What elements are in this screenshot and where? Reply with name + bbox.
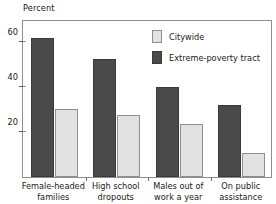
bar-chart-figure: Percent 204060 Female-headedfamiliesHigh… (0, 0, 275, 204)
y-axis-title: Percent (23, 3, 55, 13)
x-axis-category-label-line: Female-headed (18, 181, 89, 192)
legend-swatch-light-icon (152, 30, 162, 43)
x-axis-category-label-line: Males out of (143, 181, 214, 192)
x-axis-category-label-line: On public (206, 181, 276, 192)
bar-citywide (242, 153, 265, 177)
x-axis-category-label: On publicassistance (206, 181, 276, 202)
bar-citywide (55, 109, 78, 177)
x-axis-category-label-line: High school (81, 181, 152, 192)
legend-label-extreme-poverty-tract: Extreme-poverty tract (169, 53, 260, 63)
x-axis-category-label-line: work a year (143, 192, 214, 203)
bar-citywide (180, 124, 203, 177)
x-axis-category-label-line: assistance (206, 192, 276, 203)
chart-legend: Citywide Extreme-poverty tract (152, 30, 260, 72)
legend-item-extreme-poverty-tract: Extreme-poverty tract (152, 51, 260, 64)
legend-label-citywide: Citywide (169, 32, 204, 42)
y-axis-tick-label: 40 (8, 72, 18, 82)
x-axis-category-label: Males out ofwork a year (143, 181, 214, 202)
x-axis-category-label-line: dropouts (81, 192, 152, 203)
y-axis-tick-label: 60 (8, 27, 18, 37)
y-axis-tick-label: 20 (8, 117, 18, 127)
bar-extreme-poverty-tract (93, 59, 116, 178)
x-axis-category-label: High schooldropouts (81, 181, 152, 202)
bar-extreme-poverty-tract (218, 105, 241, 177)
x-axis-category-label-line: families (18, 192, 89, 203)
bar-extreme-poverty-tract (31, 38, 54, 177)
bar-citywide (117, 115, 140, 177)
x-axis-category-label: Female-headedfamilies (18, 181, 89, 202)
legend-item-citywide: Citywide (152, 30, 260, 43)
legend-swatch-dark-icon (152, 51, 162, 64)
bar-extreme-poverty-tract (156, 87, 179, 177)
